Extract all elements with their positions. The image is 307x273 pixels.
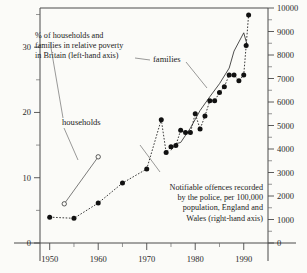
data-point-crime (71, 216, 76, 221)
x-axis-tick-label: 1980 (187, 254, 204, 264)
y-axis-right-tick-label: 10000 (277, 3, 298, 13)
leader-families-left (135, 58, 150, 60)
data-point-crime (236, 78, 241, 83)
y-axis-right-tick-label: 4000 (277, 144, 294, 154)
annotation-crime-note: Notifiable offences recordedby the polic… (169, 183, 263, 223)
series-line-households (64, 157, 98, 204)
data-point-crime (183, 130, 188, 135)
data-point-crime (244, 43, 249, 48)
chart-container: 0102030010002000300040005000600070008000… (0, 0, 307, 273)
x-axis-tick-label: 1950 (41, 254, 58, 264)
y-axis-left-tick-label: 10 (23, 173, 32, 183)
annotation-poverty-note: % of households andfamilies in relative … (35, 31, 124, 60)
data-point-crime (241, 72, 246, 77)
series-label-families: families (153, 54, 181, 64)
data-point-crime (144, 166, 149, 171)
data-point-crime (207, 98, 212, 103)
data-point-crime (222, 84, 227, 89)
data-point-crime (227, 72, 232, 77)
y-axis-right-tick-label: 1000 (277, 215, 294, 225)
y-axis-right-tick-label: 6000 (277, 97, 294, 107)
data-point-crime (198, 127, 203, 132)
data-point-crime (164, 150, 169, 155)
data-point-crime (178, 128, 183, 133)
y-axis-right-tick-label: 5000 (277, 121, 294, 131)
leader-families-right (186, 62, 207, 88)
data-point-crime (232, 72, 237, 77)
y-axis-left-tick-label: 20 (23, 107, 32, 117)
data-point-crime (246, 13, 251, 18)
data-point-crime (212, 98, 217, 103)
y-axis-right-tick-label: 2000 (277, 191, 294, 201)
leader-crime-note (140, 145, 160, 172)
x-axis-tick-label: 1990 (235, 254, 252, 264)
series-label-households: households (62, 117, 101, 127)
y-axis-right-tick-label: 0 (277, 238, 281, 248)
data-point-crime (168, 144, 173, 149)
y-axis-right-tick-label: 9000 (277, 27, 294, 37)
data-point-crime (47, 215, 52, 220)
x-axis-tick-label: 1960 (90, 254, 107, 264)
data-point-crime (188, 130, 193, 135)
data-point-crime (173, 143, 178, 148)
series-line-families (171, 33, 247, 151)
y-axis-right-tick-label: 8000 (277, 50, 294, 60)
data-point-crime (120, 181, 125, 186)
data-point-crime (193, 111, 198, 116)
y-axis-right-tick-label: 3000 (277, 168, 294, 178)
data-point-crime (202, 114, 207, 119)
data-point-crime (96, 201, 101, 206)
data-point-households (96, 155, 100, 159)
poverty-crime-chart: 0102030010002000300040005000600070008000… (0, 0, 307, 273)
y-axis-left-tick-label: 30 (23, 42, 32, 52)
data-point-households (62, 202, 66, 206)
data-point-crime (217, 90, 222, 95)
x-axis-tick-label: 1970 (138, 254, 155, 264)
leader-households (64, 128, 78, 160)
y-axis-left-tick-label: 0 (27, 238, 31, 248)
data-point-crime (159, 117, 164, 122)
y-axis-right-tick-label: 7000 (277, 74, 294, 84)
